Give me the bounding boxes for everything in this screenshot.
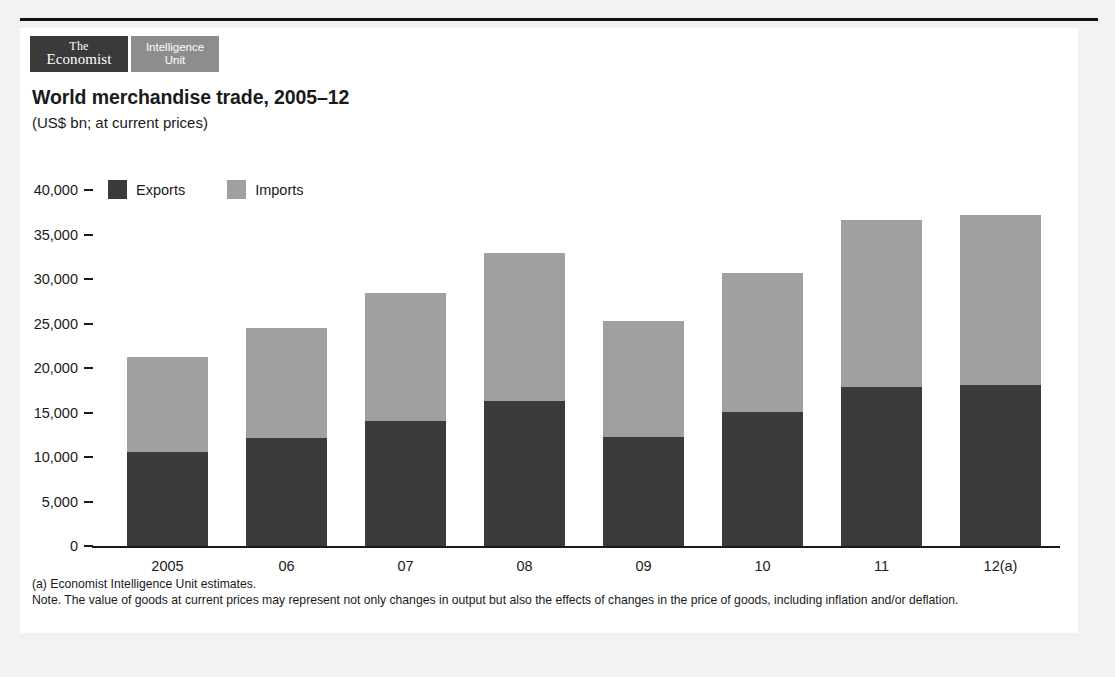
bar-group[interactable] [603, 190, 684, 546]
y-axis-tick-mark [84, 456, 93, 458]
y-axis-tick-mark [84, 323, 93, 325]
top-divider [20, 18, 1098, 21]
y-axis-tick-label: 35,000 [34, 227, 78, 243]
bar-segment-exports[interactable] [722, 412, 803, 546]
bar-segment-imports[interactable] [603, 321, 684, 436]
y-axis-tick-mark [84, 412, 93, 414]
x-axis-tick-label: 09 [584, 558, 703, 574]
chart-page: The Economist Intelligence Unit World me… [0, 0, 1115, 677]
x-axis-tick-label: 12(a) [941, 558, 1060, 574]
bar-group[interactable] [246, 190, 327, 546]
y-axis-tick-label: 0 [70, 538, 78, 554]
y-axis-tick-label: 10,000 [34, 449, 78, 465]
bar-segment-imports[interactable] [960, 215, 1041, 385]
chart-footnotes: (a) Economist Intelligence Unit estimate… [32, 576, 1064, 608]
bar-segment-imports[interactable] [246, 328, 327, 438]
y-axis-tick-label: 20,000 [34, 360, 78, 376]
x-axis-tick-label: 10 [703, 558, 822, 574]
x-axis-tick-label: 07 [346, 558, 465, 574]
y-axis-tick-label: 15,000 [34, 405, 78, 421]
bar-segment-imports[interactable] [484, 253, 565, 401]
bar-segment-exports[interactable] [960, 385, 1041, 546]
y-axis-tick-mark [84, 234, 93, 236]
y-axis-tick-mark [84, 367, 93, 369]
bar-segment-exports[interactable] [603, 437, 684, 546]
y-axis-tick-label: 30,000 [34, 271, 78, 287]
bar-group[interactable] [484, 190, 565, 546]
x-axis-tick-label: 2005 [108, 558, 227, 574]
bar-group[interactable] [127, 190, 208, 546]
bar-group[interactable] [365, 190, 446, 546]
bar-group[interactable] [960, 190, 1041, 546]
bar-segment-imports[interactable] [127, 357, 208, 452]
bar-segment-imports[interactable] [365, 293, 446, 421]
bar-segment-imports[interactable] [722, 273, 803, 412]
chart-plot-area: ExportsImports 05,00010,00015,00020,0002… [20, 28, 1078, 633]
y-axis-tick-label: 25,000 [34, 316, 78, 332]
y-axis-tick-mark [84, 501, 93, 503]
x-axis-tick-label: 11 [822, 558, 941, 574]
x-axis-line [92, 546, 1060, 548]
footnote-note: Note. The value of goods at current pric… [32, 592, 1064, 608]
bars-layer [108, 190, 1060, 546]
bar-segment-exports[interactable] [841, 387, 922, 546]
y-axis-tick-mark [84, 189, 93, 191]
footnote-source: (a) Economist Intelligence Unit estimate… [32, 576, 1064, 592]
bar-segment-exports[interactable] [365, 421, 446, 546]
bar-group[interactable] [722, 190, 803, 546]
bar-segment-imports[interactable] [841, 220, 922, 386]
x-axis-tick-label: 06 [227, 558, 346, 574]
y-axis-tick-label: 5,000 [42, 494, 78, 510]
x-axis-tick-label: 08 [465, 558, 584, 574]
y-axis-tick-label: 40,000 [34, 182, 78, 198]
bar-group[interactable] [841, 190, 922, 546]
bar-segment-exports[interactable] [246, 438, 327, 546]
bar-segment-exports[interactable] [484, 401, 565, 546]
chart-card: The Economist Intelligence Unit World me… [20, 28, 1078, 633]
y-axis-tick-mark [84, 278, 93, 280]
bar-segment-exports[interactable] [127, 452, 208, 546]
